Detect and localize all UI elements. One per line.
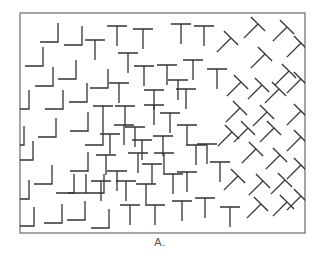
tilted-t-shape-element <box>259 148 287 176</box>
l-shape-element <box>40 23 58 42</box>
l-shape-element <box>25 47 43 66</box>
t-shape-element <box>142 164 162 184</box>
l-shape-element <box>64 26 82 45</box>
t-shape-element <box>120 205 140 225</box>
l-shape-element <box>58 60 76 79</box>
l-shape-element <box>90 69 108 88</box>
t-shape-element <box>128 153 148 173</box>
l-shape-element <box>91 209 109 228</box>
t-shape-element <box>171 24 191 44</box>
l-shape-element <box>69 83 87 102</box>
tilted-t-shape-element <box>220 75 248 103</box>
tilted-t-shape-element <box>227 121 255 149</box>
t-shape-element <box>133 29 153 49</box>
tilted-t-shape-element <box>241 78 269 106</box>
l-shape-element <box>6 126 24 145</box>
tilted-t-shape-element <box>217 169 245 197</box>
t-shape-element <box>186 145 206 165</box>
tilted-t-shape-element <box>246 105 274 133</box>
l-shape-element <box>68 174 86 193</box>
t-shape-element <box>160 113 180 133</box>
l-shape-element <box>44 204 62 223</box>
tilted-t-shape-element <box>237 17 265 45</box>
l-shape-element <box>16 207 34 226</box>
texture-segregation-figure <box>0 0 320 258</box>
l-shape-element <box>34 165 52 184</box>
t-shape-element <box>177 125 197 145</box>
t-shape-element <box>93 106 113 126</box>
t-shape-element <box>177 172 197 192</box>
tilted-t-shape-element <box>258 82 286 110</box>
tilted-t-shape-element <box>211 125 239 153</box>
tilted-t-shape-element <box>280 158 308 186</box>
t-shape-element <box>163 174 183 194</box>
t-shape-element <box>194 26 214 46</box>
tilted-t-shape-element <box>280 36 308 64</box>
t-shape-element <box>183 60 203 80</box>
l-shape-element <box>56 174 74 193</box>
t-shape-element <box>115 106 135 126</box>
tilted-t-shape-element <box>264 173 292 201</box>
t-shape-element <box>145 205 165 225</box>
tilted-t-shape-element <box>242 174 270 202</box>
tilted-t-shape-element <box>244 47 272 75</box>
l-shape-element <box>70 152 88 171</box>
tilted-t-shape-element <box>280 189 308 217</box>
l-shape-element <box>38 118 56 137</box>
t-shape-element <box>109 83 129 103</box>
l-shape-element <box>45 90 63 109</box>
tilted-t-shape-element <box>253 121 281 149</box>
t-shape-element <box>207 69 227 89</box>
tilted-t-shape-element <box>210 31 238 59</box>
l-shape-element <box>67 201 85 220</box>
stimulus-elements <box>6 17 308 228</box>
t-shape-element <box>144 105 164 125</box>
tilted-t-shape-element <box>240 197 268 225</box>
t-shape-element <box>197 144 217 164</box>
tilted-t-shape-element <box>280 104 308 132</box>
tilted-t-shape-element <box>280 130 308 158</box>
tilted-t-shape-element <box>266 20 294 48</box>
t-shape-element <box>91 181 111 201</box>
t-shape-element <box>157 65 177 85</box>
t-shape-element <box>107 26 127 46</box>
t-shape-element <box>96 155 116 175</box>
t-shape-element <box>172 201 192 221</box>
t-shape-element <box>195 198 215 218</box>
stimulus-frame <box>20 13 305 233</box>
tilted-t-shape-element <box>266 195 294 223</box>
l-shape-element <box>70 112 88 131</box>
t-shape-element <box>136 184 156 204</box>
t-shape-element <box>168 80 188 100</box>
l-shape-element <box>35 67 53 86</box>
t-shape-element <box>114 125 134 145</box>
tilted-t-shape-element <box>235 142 263 170</box>
t-shape-element <box>116 181 136 201</box>
t-shape-element <box>176 89 196 109</box>
t-shape-element <box>154 153 174 173</box>
t-shape-element <box>85 40 105 60</box>
t-shape-element <box>118 53 138 73</box>
t-shape-element <box>210 162 230 182</box>
figure-caption: A. <box>0 236 320 248</box>
tilted-t-shape-element <box>219 101 247 129</box>
t-shape-element <box>220 207 240 227</box>
t-shape-element <box>134 66 154 86</box>
